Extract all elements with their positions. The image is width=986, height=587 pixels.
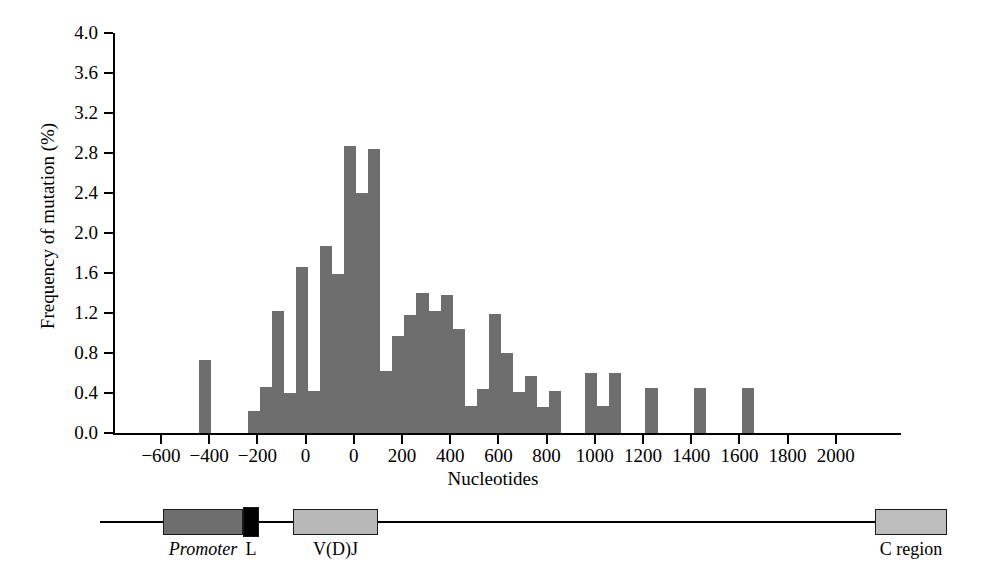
histogram-bar <box>308 391 320 433</box>
histogram-bar <box>199 360 211 433</box>
histogram-bar <box>609 373 621 433</box>
y-axis-tick <box>104 112 113 114</box>
histogram-bar <box>489 314 501 433</box>
y-axis-tick-label: 0.8 <box>38 343 98 362</box>
y-axis-tick-label: 0.0 <box>38 423 98 442</box>
histogram-bar <box>368 149 380 433</box>
x-axis-tick <box>738 435 740 444</box>
histogram-bar <box>429 311 441 433</box>
y-axis-tick <box>104 272 113 274</box>
histogram-bar <box>513 392 525 433</box>
y-axis-tick-label: 3.2 <box>38 103 98 122</box>
histogram-bar <box>465 406 477 433</box>
histogram-bar <box>260 387 272 433</box>
histogram-bar <box>356 193 368 433</box>
y-axis-tick-label: 4.0 <box>38 23 98 42</box>
histogram-bar <box>549 391 561 433</box>
histogram-bar <box>320 246 332 433</box>
x-axis-tick <box>642 435 644 444</box>
histogram-bar <box>645 388 657 433</box>
y-axis-tick <box>104 312 113 314</box>
histogram-bar <box>525 376 537 433</box>
x-axis-tick <box>305 435 307 444</box>
y-axis-tick-label: 0.4 <box>38 383 98 402</box>
y-axis-tick <box>104 152 113 154</box>
x-axis-tick <box>690 435 692 444</box>
histogram-bar <box>597 406 609 433</box>
x-axis-tick <box>256 435 258 444</box>
y-axis-tick <box>104 392 113 394</box>
histogram-bar <box>694 388 706 433</box>
mutation-frequency-figure: Frequency of mutation (%) 0.00.40.81.21.… <box>0 0 986 587</box>
histogram-bar <box>380 371 392 433</box>
y-axis-tick-label: 2.0 <box>38 223 98 242</box>
x-axis-tick <box>208 435 210 444</box>
x-axis-title: Nucleotides <box>0 468 986 490</box>
gene-segment-label: V(D)J <box>261 539 411 560</box>
y-axis-tick <box>104 432 113 434</box>
gene-segment-box <box>293 509 378 535</box>
histogram-bar <box>284 393 296 433</box>
x-axis-line <box>113 433 901 435</box>
histogram-bar <box>344 146 356 433</box>
x-axis-tick <box>787 435 789 444</box>
histogram-bar <box>332 274 344 433</box>
histogram-bar <box>392 336 404 433</box>
y-axis-tick-label: 2.8 <box>38 143 98 162</box>
histogram-bar <box>537 407 549 433</box>
x-axis-tick <box>497 435 499 444</box>
gene-segment-box <box>163 509 243 535</box>
x-axis-tick <box>546 435 548 444</box>
gene-segment-box <box>875 509 947 535</box>
histogram-bar <box>585 373 597 433</box>
x-axis-tick-label: 2000 <box>801 446 871 465</box>
gene-segment-box <box>243 507 259 537</box>
y-axis-tick <box>104 192 113 194</box>
x-axis-tick <box>835 435 837 444</box>
histogram-bar <box>248 411 260 433</box>
y-axis-tick <box>104 232 113 234</box>
y-axis-tick <box>104 352 113 354</box>
y-axis-tick-label: 1.6 <box>38 263 98 282</box>
histogram-bar <box>441 295 453 433</box>
x-axis-tick <box>449 435 451 444</box>
histogram-bar <box>477 389 489 433</box>
histogram-bar <box>453 329 465 433</box>
gene-structure-diagram: PromoterLV(D)JC region <box>0 495 986 587</box>
x-axis-tick <box>594 435 596 444</box>
histogram-bar <box>272 311 284 433</box>
histogram-bar <box>296 267 308 433</box>
x-axis-tick <box>401 435 403 444</box>
gene-segment-label: C region <box>836 539 986 560</box>
histogram-bar <box>742 388 754 433</box>
y-axis-tick <box>104 72 113 74</box>
y-axis-tick <box>104 32 113 34</box>
histogram-bar <box>416 293 428 433</box>
y-axis-tick-label: 3.6 <box>38 63 98 82</box>
histogram-bar <box>404 315 416 433</box>
x-axis-tick <box>160 435 162 444</box>
histogram-bar <box>501 353 513 433</box>
histogram-bars <box>113 33 901 433</box>
y-axis-tick-label: 2.4 <box>38 183 98 202</box>
y-axis-tick-label: 1.2 <box>38 303 98 322</box>
x-axis-tick <box>353 435 355 444</box>
